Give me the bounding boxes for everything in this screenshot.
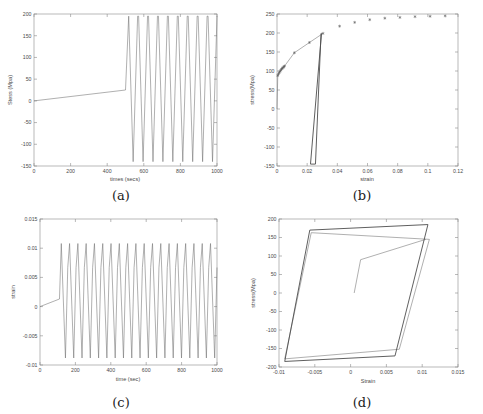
tick-label-x: 0.1 bbox=[424, 168, 431, 174]
tick-label-y: -100 bbox=[264, 144, 274, 150]
series-a bbox=[34, 16, 217, 161]
panel-b: 00.020.040.060.080.10.12-150-100-5005010… bbox=[241, 0, 483, 207]
tick-label-y: -100 bbox=[21, 141, 31, 147]
tick-label-y: 50 bbox=[269, 87, 275, 93]
tick-label-y: -150 bbox=[21, 163, 31, 169]
tick-label-y: 150 bbox=[23, 33, 32, 39]
tick-label-x: 400 bbox=[103, 168, 112, 174]
panel-d: -0.01-0.00500.0050.010.015-200-150-100-5… bbox=[241, 207, 483, 414]
tick-label-x: 0.12 bbox=[453, 168, 463, 174]
tick-label-y: -0.005 bbox=[23, 333, 38, 339]
tick-label-y: 250 bbox=[266, 11, 275, 17]
scatter-markers-b bbox=[276, 14, 446, 77]
tick-label-y: -150 bbox=[266, 345, 276, 351]
tick-label-y: 200 bbox=[23, 11, 32, 17]
tick-label-x: 800 bbox=[177, 367, 186, 373]
tick-label-x: 0.015 bbox=[452, 369, 465, 375]
plot-b: 00.020.040.060.080.10.12-150-100-5005010… bbox=[241, 0, 483, 207]
plot-a: 02004006008001000-150-100-50050100150200… bbox=[0, 0, 242, 207]
caption-a: (a) bbox=[0, 188, 242, 203]
tick-label-y: -200 bbox=[266, 364, 276, 370]
tick-label-x: 600 bbox=[139, 168, 148, 174]
series-d bbox=[285, 225, 430, 362]
caption-c: (c) bbox=[0, 395, 242, 410]
ticks-d: -0.01-0.00500.0050.010.015-200-150-100-5… bbox=[266, 216, 464, 375]
tick-label-y: 0 bbox=[274, 290, 277, 296]
ticks-b: 00.020.040.060.080.10.12-150-100-5005010… bbox=[264, 11, 463, 174]
axes-b bbox=[277, 14, 458, 166]
tick-label-x: 0 bbox=[39, 367, 42, 373]
tick-label-y: -50 bbox=[24, 119, 32, 125]
tick-label-y: 50 bbox=[26, 76, 32, 82]
tick-label-y: 200 bbox=[268, 216, 277, 222]
tick-label-x: 0 bbox=[276, 168, 279, 174]
tick-label-y: 0.005 bbox=[25, 274, 38, 280]
axis-label-y-d: stress(Mpa) bbox=[250, 278, 256, 308]
tick-label-y: 100 bbox=[266, 68, 275, 74]
panel-a: 02004006008001000-150-100-50050100150200… bbox=[0, 0, 242, 207]
tick-label-x: 0.005 bbox=[380, 369, 393, 375]
axis-label-x-c: time (sec) bbox=[116, 376, 141, 382]
tick-label-y: 50 bbox=[271, 271, 277, 277]
tick-label-x: 0.01 bbox=[417, 369, 427, 375]
tick-label-x: 600 bbox=[142, 367, 151, 373]
axis-label-x-b: strain bbox=[360, 176, 374, 182]
tick-label-y: 100 bbox=[268, 253, 277, 259]
tick-label-y: 150 bbox=[266, 49, 275, 55]
plot-d: -0.01-0.00500.0050.010.015-200-150-100-5… bbox=[241, 207, 483, 414]
panel-c: 02004006008001000-0.01-0.00500.0050.010.… bbox=[0, 207, 242, 414]
tick-label-y: 100 bbox=[23, 54, 32, 60]
tick-label-x: 0 bbox=[33, 168, 36, 174]
tick-label-x: 0.02 bbox=[302, 168, 312, 174]
tick-label-x: 200 bbox=[66, 168, 75, 174]
caption-d: (d) bbox=[241, 395, 483, 410]
figure-four-panel: 02004006008001000-150-100-50050100150200… bbox=[0, 0, 483, 414]
tick-label-x: 1000 bbox=[211, 168, 223, 174]
tick-label-y: 200 bbox=[266, 30, 275, 36]
tick-label-x: 0 bbox=[349, 369, 352, 375]
series-c bbox=[40, 244, 217, 358]
tick-label-y: -150 bbox=[264, 163, 274, 169]
tick-label-x: 0.04 bbox=[332, 168, 342, 174]
series-b bbox=[276, 14, 446, 164]
tick-label-y: -50 bbox=[267, 125, 275, 131]
tick-label-y: 0 bbox=[29, 98, 32, 104]
tick-label-y: 150 bbox=[268, 234, 277, 240]
plot-c: 02004006008001000-0.01-0.00500.0050.010.… bbox=[0, 207, 242, 414]
tick-label-x: 800 bbox=[176, 168, 185, 174]
tick-label-x: 0.08 bbox=[393, 168, 403, 174]
tick-label-x: -0.005 bbox=[307, 369, 322, 375]
axis-label-x-d: Strain bbox=[361, 378, 376, 384]
tick-label-y: 0 bbox=[272, 106, 275, 112]
tick-label-y: -100 bbox=[266, 327, 276, 333]
axis-label-y-c: strain bbox=[10, 285, 16, 299]
tick-label-y: -50 bbox=[269, 308, 277, 314]
tick-label-y: 0.015 bbox=[25, 216, 38, 222]
axis-label-y-b: stress(Mpa) bbox=[249, 75, 255, 105]
ticks-c: 02004006008001000-0.01-0.00500.0050.010.… bbox=[23, 216, 223, 373]
axis-label-y-a: Stess (Mpa) bbox=[7, 75, 13, 105]
tick-label-y: 0.01 bbox=[27, 245, 37, 251]
caption-b: (b) bbox=[241, 188, 483, 203]
tick-label-x: 200 bbox=[71, 367, 80, 373]
tick-label-y: 0 bbox=[35, 304, 38, 310]
tick-label-x: 0.06 bbox=[362, 168, 372, 174]
tick-label-y: -0.01 bbox=[26, 362, 38, 368]
tick-label-x: 1000 bbox=[211, 367, 223, 373]
axis-label-x-a: times (secs) bbox=[110, 176, 140, 182]
ticks-a: 02004006008001000-150-100-50050100150200 bbox=[21, 11, 223, 174]
axes-d bbox=[279, 219, 458, 367]
tick-label-x: 400 bbox=[106, 367, 115, 373]
